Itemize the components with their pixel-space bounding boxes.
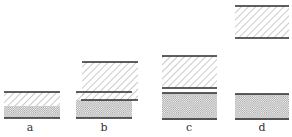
crosshatched-layer bbox=[162, 93, 217, 120]
hatched-layer bbox=[4, 92, 60, 106]
crosshatched-layer bbox=[76, 100, 132, 118]
panel-label-b: b bbox=[100, 121, 107, 134]
hatched-layer bbox=[235, 6, 289, 38]
panel-c: c bbox=[162, 56, 217, 134]
panel-label-a: a bbox=[27, 121, 34, 134]
crosshatched-layer bbox=[4, 106, 60, 118]
crosshatched-layer bbox=[235, 94, 289, 120]
panel-d: d bbox=[235, 6, 289, 134]
panel-b: b bbox=[76, 62, 138, 134]
layer-diagram: a b c d bbox=[0, 0, 292, 137]
panel-a: a bbox=[4, 92, 60, 134]
hatched-layer bbox=[82, 62, 138, 100]
panel-label-c: c bbox=[186, 121, 192, 134]
hatched-overlap bbox=[76, 92, 84, 100]
panel-label-d: d bbox=[258, 121, 265, 134]
hatched-layer bbox=[162, 56, 217, 88]
